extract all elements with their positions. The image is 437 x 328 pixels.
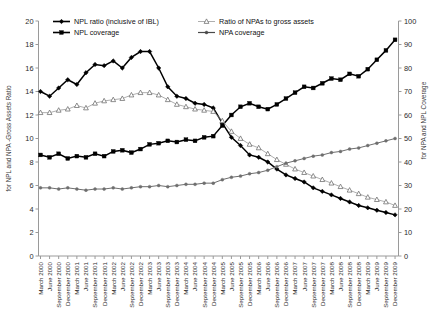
y2-axis-tick-labels: 0102030405060708090100 bbox=[404, 17, 416, 261]
data-point-marker bbox=[121, 188, 124, 191]
x-tick-label: December 2009 bbox=[391, 261, 398, 306]
data-point-marker bbox=[66, 157, 70, 161]
x-tick-label: September 2008 bbox=[346, 261, 353, 307]
data-point-marker bbox=[139, 185, 142, 188]
data-point-marker bbox=[257, 105, 261, 109]
data-point-marker bbox=[356, 203, 360, 207]
data-point-marker bbox=[274, 157, 279, 162]
series-2 bbox=[39, 38, 397, 160]
legend-label: Ratio of NPAs to gross assets bbox=[219, 17, 314, 26]
data-point-marker bbox=[248, 172, 251, 175]
x-tick-label: September 2002 bbox=[128, 261, 135, 307]
data-point-marker bbox=[230, 113, 234, 117]
data-point-marker bbox=[339, 150, 342, 153]
data-point-marker bbox=[266, 169, 269, 172]
x-tick-label: June 2008 bbox=[337, 261, 344, 290]
y2-tick-label: 80 bbox=[404, 64, 412, 73]
data-point-marker bbox=[130, 151, 134, 155]
y-tick-label: 4 bbox=[29, 205, 33, 214]
data-point-marker bbox=[75, 188, 78, 191]
legend-label: NPL ratio (inclusive of IBL) bbox=[74, 17, 159, 26]
data-point-marker bbox=[194, 183, 197, 186]
data-point-marker bbox=[205, 31, 208, 34]
y2-axis-title: for NPA and NPL Coverage bbox=[420, 81, 428, 159]
data-point-marker bbox=[375, 58, 379, 62]
y-tick-label: 12 bbox=[25, 111, 33, 120]
data-point-marker bbox=[94, 188, 97, 191]
data-point-marker bbox=[248, 101, 252, 105]
data-point-marker bbox=[275, 165, 278, 168]
data-point-marker bbox=[174, 102, 179, 107]
data-point-marker bbox=[375, 142, 378, 145]
x-tick-label: March 2007 bbox=[291, 261, 298, 294]
data-point-marker bbox=[321, 153, 324, 156]
x-tick-label: December 2005 bbox=[246, 261, 253, 306]
data-point-marker bbox=[48, 186, 51, 189]
data-point-marker bbox=[175, 184, 178, 187]
y2-tick-label: 50 bbox=[404, 134, 412, 143]
x-tick-label: September 2000 bbox=[55, 261, 62, 307]
x-tick-label: December 2004 bbox=[210, 261, 217, 306]
x-tick-label: March 2000 bbox=[37, 261, 44, 294]
data-point-marker bbox=[238, 136, 243, 141]
data-point-marker bbox=[230, 176, 233, 179]
data-point-marker bbox=[239, 175, 242, 178]
legend-label: NPA coverage bbox=[219, 28, 264, 37]
x-tick-label: March 2003 bbox=[146, 261, 153, 294]
y-tick-label: 0 bbox=[29, 252, 33, 261]
x-tick-label: September 2007 bbox=[310, 261, 317, 307]
data-point-marker bbox=[84, 189, 87, 192]
data-point-marker bbox=[111, 150, 115, 154]
data-point-marker bbox=[265, 151, 270, 156]
data-point-marker bbox=[366, 206, 370, 210]
data-point-marker bbox=[130, 186, 133, 189]
x-tick-label: December 2002 bbox=[137, 261, 144, 306]
y2-tick-label: 100 bbox=[404, 17, 416, 26]
data-point-marker bbox=[312, 155, 315, 158]
data-point-marker bbox=[39, 153, 43, 157]
data-point-marker bbox=[120, 148, 124, 152]
x-tick-label: March 2002 bbox=[110, 261, 117, 294]
data-point-marker bbox=[384, 48, 388, 52]
x-axis-tick-labels: March 2000June 2000September 2000Decembe… bbox=[37, 261, 399, 307]
data-point-marker bbox=[166, 185, 169, 188]
data-point-marker bbox=[330, 77, 334, 81]
data-point-marker bbox=[175, 140, 179, 144]
data-point-marker bbox=[157, 141, 161, 145]
series-line bbox=[41, 139, 396, 191]
data-point-marker bbox=[293, 91, 297, 95]
data-point-marker bbox=[48, 155, 52, 159]
legend-npa-ratio[interactable]: Ratio of NPAs to gross assets bbox=[198, 17, 314, 26]
data-point-marker bbox=[329, 193, 333, 197]
data-point-marker bbox=[347, 200, 351, 204]
x-tick-label: June 2001 bbox=[82, 261, 89, 290]
data-point-marker bbox=[103, 188, 106, 191]
data-point-marker bbox=[220, 124, 224, 128]
legend-npl-ratio[interactable]: NPL ratio (inclusive of IBL) bbox=[53, 17, 159, 26]
data-series bbox=[38, 38, 397, 217]
chart-legend: NPL ratio (inclusive of IBL)NPL coverage… bbox=[53, 17, 314, 37]
tick-marks bbox=[36, 21, 402, 259]
x-tick-label: June 2007 bbox=[301, 261, 308, 290]
y2-tick-label: 40 bbox=[404, 158, 412, 167]
data-point-marker bbox=[247, 142, 252, 147]
x-tick-label: March 2006 bbox=[255, 261, 262, 294]
data-point-marker bbox=[148, 185, 151, 188]
data-point-marker bbox=[75, 154, 79, 158]
chart-container: 02468101214161820 0102030405060708090100… bbox=[0, 0, 437, 328]
legend-npa-coverage[interactable]: NPA coverage bbox=[198, 28, 264, 37]
data-point-marker bbox=[157, 184, 160, 187]
data-point-marker bbox=[393, 213, 397, 217]
y-tick-label: 20 bbox=[25, 17, 33, 26]
data-point-marker bbox=[302, 85, 306, 89]
data-point-marker bbox=[384, 210, 388, 214]
legend-npl-coverage[interactable]: NPL coverage bbox=[53, 28, 119, 37]
axis-titles: for NPL and NPA -Gross Assets Ratiofor N… bbox=[5, 81, 428, 191]
data-point-marker bbox=[60, 31, 64, 35]
x-tick-label: June 2006 bbox=[264, 261, 271, 290]
x-tick-label: September 2005 bbox=[237, 261, 244, 307]
data-point-marker bbox=[275, 103, 279, 107]
y2-tick-label: 70 bbox=[404, 87, 412, 96]
series-line bbox=[41, 52, 396, 215]
data-point-marker bbox=[284, 97, 288, 101]
